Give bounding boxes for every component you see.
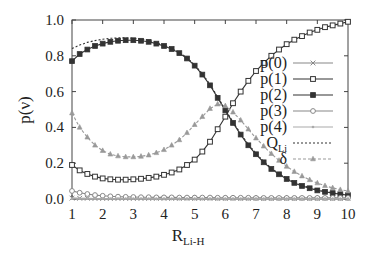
x-tick-label: 4: [160, 206, 168, 222]
x-tick-label: 2: [99, 206, 107, 222]
x-axis-ticks: 12345678910: [68, 20, 355, 222]
x-tick-label: 9: [314, 206, 322, 222]
x-tick-label: 6: [222, 206, 230, 222]
x-axis-label-sub: Li-H: [183, 235, 204, 247]
series-q-li: [72, 38, 348, 195]
x-tick-label: 7: [252, 206, 260, 222]
x-axis-label-main: R: [172, 226, 184, 245]
y-tick-label: 1.0: [45, 12, 64, 28]
x-tick-label: 5: [191, 206, 199, 222]
y-tick-label: 0.6: [45, 84, 64, 100]
y-axis-label: p(ν): [15, 96, 34, 124]
series-p-2-: [70, 38, 351, 198]
y-tick-label: 0.0: [45, 191, 64, 207]
legend: p(0)p(1)p(2)p(3)p(4)QLiδ: [260, 54, 333, 167]
y-tick-label: 0.2: [45, 155, 64, 171]
y-tick-label: 0.4: [45, 119, 64, 135]
x-tick-label: 8: [283, 206, 291, 222]
y-tick-label: 0.8: [45, 48, 64, 64]
x-axis-label: RLi-H: [172, 226, 205, 247]
legend-label: δ: [279, 150, 287, 167]
legend-item: δ: [279, 150, 333, 167]
x-tick-label: 3: [130, 206, 138, 222]
x-tick-label: 1: [68, 206, 76, 222]
legend-item: QLi: [267, 134, 333, 154]
x-tick-label: 10: [341, 206, 356, 222]
chart: 0.00.20.40.60.81.0 12345678910 p(0)p(1)p…: [0, 0, 376, 257]
series-layer: [70, 19, 351, 200]
